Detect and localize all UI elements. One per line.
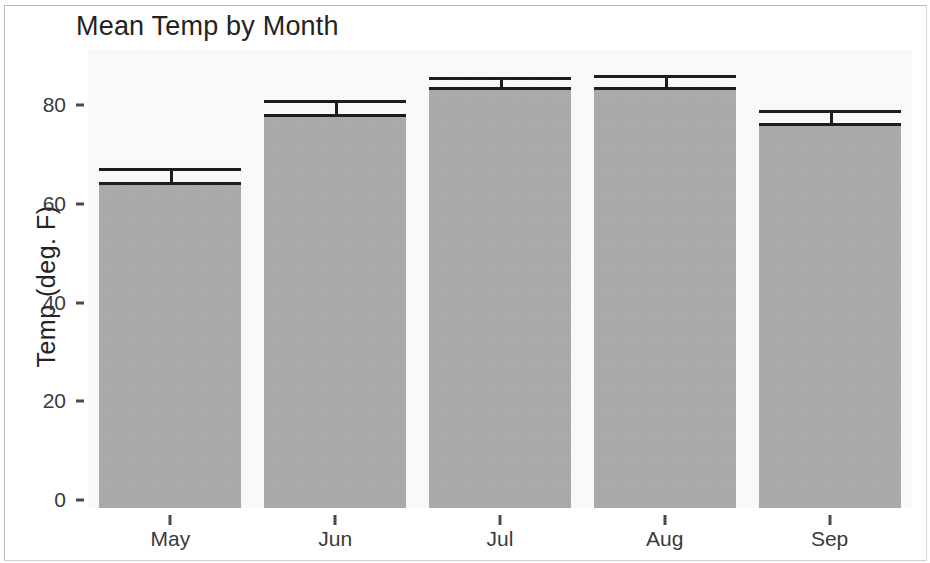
y-axis-tick-label: 80 (24, 93, 66, 117)
x-axis-tick-label-may: May (151, 527, 191, 551)
x-axis-tick-label-jun: Jun (318, 527, 352, 551)
x-axis-tick-mark (499, 515, 502, 525)
bar-jun (264, 114, 406, 508)
x-axis-tick-label-aug: Aug (646, 527, 683, 551)
bar-aug (594, 87, 736, 508)
x-axis-tick-mark (828, 515, 831, 525)
y-axis-tick-mark (76, 104, 84, 107)
y-axis-tick-mark (76, 400, 84, 403)
y-axis-tick-mark (76, 202, 84, 205)
y-axis: 020406080 (0, 0, 88, 563)
chart-root: Mean Temp by Month Temp (deg. F) 0204060… (0, 0, 930, 563)
error-bar-stem-aug (665, 75, 668, 87)
error-bar-stem-may (170, 168, 173, 182)
error-bar-stem-jul (500, 77, 503, 87)
bar-may (99, 182, 241, 508)
x-axis-tick-mark (334, 515, 337, 525)
x-axis-tick-mark (169, 515, 172, 525)
page-title: Mean Temp by Month (76, 10, 339, 42)
x-axis-tick-label-jul: Jul (487, 527, 514, 551)
y-axis-tick-mark (76, 301, 84, 304)
y-axis-tick-label: 20 (24, 389, 66, 413)
x-axis-tick-label-sep: Sep (811, 527, 848, 551)
y-axis-tick-label: 40 (24, 291, 66, 315)
bar-jul (429, 87, 571, 508)
y-axis-tick-mark (76, 499, 84, 502)
error-bar-stem-jun (335, 100, 338, 114)
error-bar-stem-sep (830, 110, 833, 123)
bar-sep (759, 123, 901, 508)
y-axis-tick-label: 0 (24, 488, 66, 512)
plot-panel (88, 50, 912, 508)
x-axis-tick-mark (663, 515, 666, 525)
y-axis-tick-label: 60 (24, 192, 66, 216)
